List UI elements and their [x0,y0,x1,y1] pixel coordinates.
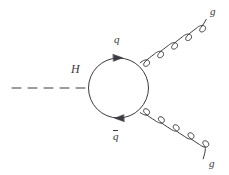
feynman-diagram-canvas: H q q g g [0,0,229,175]
quark-loop-circle [89,58,149,118]
antiquark-label-text: q [113,130,119,142]
quark-arrow-top-icon [113,54,122,61]
quark-arrow-bottom-icon [115,115,124,122]
feynman-diagram-svg [0,0,229,175]
gluon-coil-top [140,19,206,66]
gluon-bottom-label: g [209,158,215,169]
higgs-label: H [71,63,80,75]
gluon-top-label: g [210,6,216,17]
antiquark-label: q [113,130,119,142]
quark-label: q [114,34,120,45]
gluon-coil-bottom [140,109,209,159]
